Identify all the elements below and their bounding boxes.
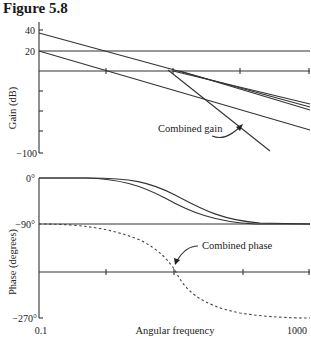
phase-tick-m90: −90°: [15, 219, 35, 230]
phase-pole-curve-1: [39, 178, 310, 224]
gain-plot: Combined gain 40 20 −100 Gain (dB): [7, 22, 310, 159]
combined-gain-label: Combined gain: [158, 123, 223, 134]
gain-tick-m100: −100: [16, 148, 37, 159]
gain-integrator-line: [39, 33, 310, 107]
gain-pole-asymptote-1: [173, 71, 310, 104]
gain-tick-20: 20: [25, 46, 35, 57]
combined-phase-arrow: [177, 246, 198, 261]
phase-pole-curve-2: [39, 178, 310, 224]
bode-plot: Combined gain 40 20 −100 Gain (dB) Combi…: [0, 0, 311, 339]
phase-y-label: Phase (degrees): [7, 228, 19, 295]
arrowhead-icon: [174, 258, 180, 265]
gain-pole-asymptote-2: [180, 71, 310, 110]
x-axis-label: Angular frequency: [135, 325, 215, 336]
phase-tick-m270: −270°: [12, 313, 37, 324]
gain-term-line: [39, 51, 310, 130]
x-tick-label-min: 0.1: [35, 325, 48, 336]
gain-tick-40: 40: [25, 25, 35, 36]
combined-phase-label: Combined phase: [202, 240, 273, 251]
gain-y-label: Gain (dB): [7, 86, 19, 129]
phase-plot: Combined phase 0° −90° −270° Phase (degr…: [7, 173, 310, 336]
phase-tick-0: 0°: [26, 173, 35, 184]
x-tick-label-max: 1000: [287, 325, 307, 336]
